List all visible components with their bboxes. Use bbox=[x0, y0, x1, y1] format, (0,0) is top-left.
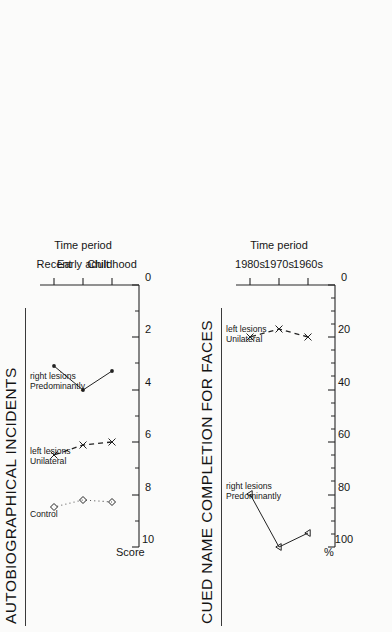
y-tick-label: 20 bbox=[338, 323, 350, 335]
x-axis-tick-labels: Childhood Early adult Recent bbox=[37, 258, 137, 270]
panel-cued-name-completion: CUED NAME COMPLETION FOR FACES bbox=[196, 0, 392, 632]
y-axis-tick-labels: 100 80 60 40 20 0 bbox=[335, 271, 353, 545]
series-control: Control bbox=[30, 497, 116, 520]
x-axis-title: Time period bbox=[54, 239, 112, 251]
y-tick-label: 2 bbox=[145, 323, 151, 335]
plot-area-autobiographical: 10 8 6 4 2 0 Score Childhood bbox=[0, 0, 196, 632]
series-predominantly-right: Predominantly right lesions bbox=[30, 364, 114, 392]
y-axis-tick-labels: 10 8 6 4 2 0 bbox=[142, 271, 154, 545]
chart-svg-cued: 100 80 60 40 20 0 % 1960s 1970s bbox=[196, 0, 392, 632]
x-axis-ticks bbox=[250, 278, 308, 285]
panel-autobiographical-incidents: AUTOBIOGRAPHICAL INCIDENTS bbox=[0, 0, 196, 632]
y-tick-label: 10 bbox=[142, 533, 154, 545]
series-unilateral-left: Unilateral left lesions bbox=[30, 439, 116, 467]
y-tick-label: 60 bbox=[338, 428, 350, 440]
y-tick-label: 0 bbox=[341, 271, 347, 283]
x-tick-label: 1970s bbox=[264, 258, 294, 270]
series-control-label: Control bbox=[30, 509, 58, 519]
series-predominantly-right-line bbox=[250, 494, 308, 547]
y-axis-title: Score bbox=[116, 546, 145, 558]
series-unilateral-left-label-line2: left lesions bbox=[226, 324, 267, 334]
x-axis-ticks bbox=[54, 278, 112, 285]
chart-svg-autobiographical: 10 8 6 4 2 0 Score Childhood bbox=[0, 0, 196, 632]
series-predominantly-right-label-line1: Predominantly bbox=[30, 381, 86, 391]
y-tick-label: 6 bbox=[145, 428, 151, 440]
y-tick-label: 0 bbox=[145, 271, 151, 283]
series-unilateral-left-label-line1: Unilateral bbox=[226, 334, 262, 344]
series-unilateral-left: Unilateral left lesions bbox=[226, 324, 312, 344]
plot-area-cued: 100 80 60 40 20 0 % 1960s 1970s bbox=[196, 0, 392, 632]
x-tick-label: 1960s bbox=[293, 258, 323, 270]
y-tick-label: 40 bbox=[338, 376, 350, 388]
x-axis-tick-labels: 1960s 1970s 1980s bbox=[235, 258, 323, 270]
series-unilateral-left-label-line1: Unilateral bbox=[30, 456, 66, 466]
series-unilateral-left-label-line2: left lesions bbox=[30, 446, 71, 456]
x-tick-label: 1980s bbox=[235, 258, 265, 270]
x-tick-label: Recent bbox=[37, 258, 72, 270]
y-axis-minor-ticks bbox=[135, 311, 139, 521]
series-predominantly-right-label-line2: right lesions bbox=[226, 481, 272, 491]
y-tick-label: 100 bbox=[335, 533, 353, 545]
series-control-markers bbox=[51, 497, 116, 511]
y-tick-label: 8 bbox=[145, 481, 151, 493]
x-axis-title: Time period bbox=[250, 239, 308, 251]
series-predominantly-right-label-line1: Predominantly bbox=[226, 491, 282, 501]
series-predominantly-right: Predominantly right lesions bbox=[226, 481, 310, 550]
y-axis-minor-ticks bbox=[331, 298, 335, 534]
y-tick-label: 4 bbox=[145, 376, 151, 388]
y-tick-label: 80 bbox=[338, 481, 350, 493]
series-predominantly-right-label-line2: right lesions bbox=[30, 371, 76, 381]
y-axis-title: % bbox=[324, 546, 334, 558]
figure-canvas: AUTOBIOGRAPHICAL INCIDENTS bbox=[0, 0, 392, 632]
